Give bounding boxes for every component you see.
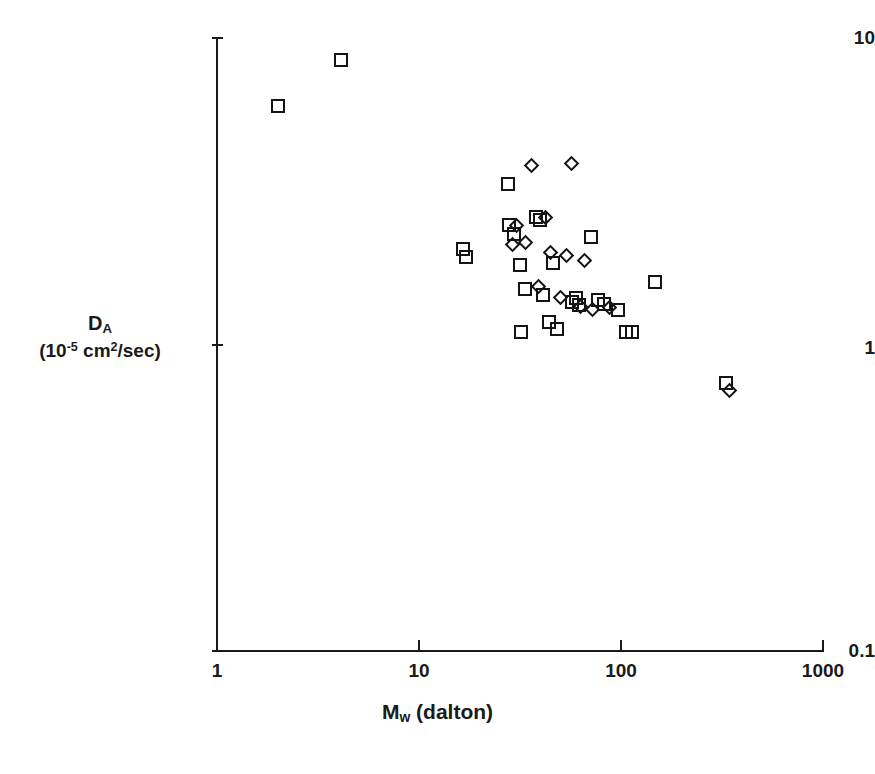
y-tick-mark bbox=[212, 344, 223, 346]
x-tick-mark bbox=[418, 640, 420, 651]
x-tick-label-100: 100 bbox=[605, 660, 637, 682]
square-marker bbox=[648, 275, 662, 289]
y-tick-label-10: 10 bbox=[670, 27, 875, 49]
y-tick-label-1: 1 bbox=[670, 337, 875, 359]
y-tick-label-0-1: 0.1 bbox=[670, 640, 875, 662]
diamond-marker bbox=[577, 253, 593, 269]
square-marker bbox=[584, 230, 598, 244]
y-axis-label-units: (10-5 cm2/sec) bbox=[0, 338, 200, 364]
square-marker bbox=[271, 99, 285, 113]
y-tick-mark bbox=[212, 650, 223, 652]
x-tick-mark bbox=[620, 640, 622, 651]
square-marker bbox=[514, 325, 528, 339]
square-marker bbox=[550, 322, 564, 336]
x-tick-label-1: 1 bbox=[212, 660, 223, 682]
square-marker bbox=[501, 177, 515, 191]
x-tick-label-1000: 1000 bbox=[802, 660, 844, 682]
square-marker bbox=[459, 250, 473, 264]
diamond-marker bbox=[559, 248, 575, 264]
square-marker bbox=[518, 282, 532, 296]
y-axis-label: DA (10-5 cm2/sec) bbox=[0, 310, 200, 363]
square-marker bbox=[513, 258, 527, 272]
chart-page: 10 1 0.1 1101001000 DA (10-5 cm2/sec) Mw… bbox=[0, 0, 875, 774]
x-tick-label-10: 10 bbox=[408, 660, 429, 682]
y-tick-mark bbox=[212, 37, 223, 39]
scatter-plot-figure: 10 1 0.1 1101001000 DA (10-5 cm2/sec) Mw… bbox=[0, 0, 875, 774]
diamond-marker bbox=[524, 157, 540, 173]
square-marker bbox=[334, 53, 348, 67]
y-axis-label-symbol: DA bbox=[0, 310, 200, 338]
diamond-marker bbox=[564, 156, 580, 172]
x-axis-label: Mw (dalton) bbox=[0, 700, 875, 725]
square-marker bbox=[625, 325, 639, 339]
